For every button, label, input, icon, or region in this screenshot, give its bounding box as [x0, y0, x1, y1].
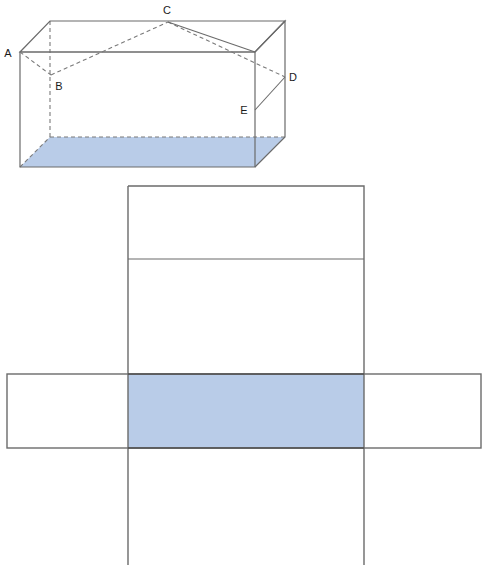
geometry-figure: A B C D E [0, 0, 488, 565]
prism-path-segment-bc [51, 22, 168, 75]
vertex-label-d: D [289, 71, 297, 83]
prism-path-segment-ed [255, 77, 285, 110]
figure-canvas: A B C D E [0, 0, 488, 565]
unfolded-net-group [7, 186, 481, 565]
rectangular-prism-group: A B C D E [4, 4, 297, 167]
prism-path-segment-c-to-front-corner [168, 22, 255, 52]
vertex-label-e: E [240, 104, 247, 116]
prism-shaded-bottom-face [20, 137, 285, 167]
vertex-label-a: A [4, 47, 12, 59]
prism-path-segment-cd [168, 22, 285, 77]
vertex-label-c: C [163, 4, 171, 16]
vertex-label-b: B [55, 80, 62, 92]
prism-top-face [20, 21, 285, 52]
prism-path-segment-ab [20, 52, 51, 75]
net-shaded-base-panel [128, 374, 364, 448]
